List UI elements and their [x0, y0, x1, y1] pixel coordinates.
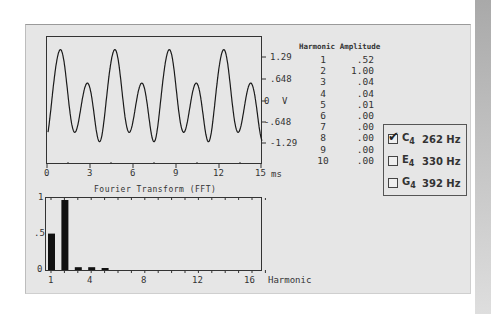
fft-y-tick-label: 0: [37, 264, 42, 274]
fft-bar: [75, 267, 82, 270]
note-checkbox-g4[interactable]: G4392 Hz: [388, 175, 461, 191]
harmonic-number: 5: [312, 99, 334, 110]
harmonic-number: 4: [312, 88, 334, 99]
fft-y-tick-label: .5: [34, 228, 45, 238]
table-row: 10.00: [312, 155, 374, 166]
fft-x-tick-label: 1: [48, 275, 53, 285]
y-tick-label: 0: [264, 96, 269, 106]
x-unit-label: ms: [271, 169, 282, 179]
amplitude-value: .04: [334, 88, 374, 99]
y-tick-label: 1.29: [270, 52, 292, 62]
fft-bar: [102, 268, 109, 270]
scrollbar[interactable]: [475, 0, 491, 314]
fft-x-tick-label: 12: [192, 275, 203, 285]
y-tick-label: .648: [270, 74, 292, 84]
table-row: 6.00: [312, 110, 374, 121]
note-selector: ✔C4262 HzE4330 HzG4392 Hz: [383, 124, 467, 196]
amplitude-value: .52: [334, 54, 374, 65]
amplitude-value: .00: [334, 121, 374, 132]
y-tick-label: -.648: [264, 117, 291, 127]
note-name: C4: [402, 132, 422, 146]
table-row: 5.01: [312, 99, 374, 110]
fft-bar: [88, 267, 95, 270]
table-row: 8.00: [312, 132, 374, 143]
amplitude-value: .00: [334, 144, 374, 155]
note-checkbox-c4[interactable]: ✔C4262 Hz: [388, 131, 461, 147]
amplitude-value: .00: [334, 132, 374, 143]
fft-x-tick-label: 8: [141, 275, 146, 285]
table-row: 1.52: [312, 54, 374, 65]
note-frequency: 262 Hz: [422, 134, 461, 145]
table-row: 21.00: [312, 65, 374, 76]
column-header-harmonic: Harmonic: [299, 42, 335, 51]
harmonic-number: 9: [312, 144, 334, 155]
note-name: G4: [402, 176, 422, 190]
x-tick-label: 9: [173, 168, 178, 178]
amplitude-value: .00: [334, 155, 374, 166]
harmonic-table-header: Harmonic Amplitude: [299, 42, 380, 51]
note-frequency: 392 Hz: [422, 178, 461, 189]
fft-x-axis-label: Harmonic: [268, 275, 311, 285]
table-row: 7.00: [312, 121, 374, 132]
check-icon: ✔: [388, 130, 399, 143]
fft-plot: [45, 197, 262, 271]
x-tick-label: 3: [87, 168, 92, 178]
checkbox[interactable]: ✔: [388, 134, 398, 144]
note-frequency: 330 Hz: [422, 156, 461, 167]
fft-x-tick-label: 16: [244, 275, 255, 285]
harmonic-number: 7: [312, 121, 334, 132]
checkbox[interactable]: [388, 178, 398, 188]
fft-bar: [61, 200, 68, 270]
x-tick-label: 15: [255, 168, 266, 178]
amplitude-value: .00: [334, 110, 374, 121]
harmonic-number: 10: [312, 155, 334, 166]
harmonic-table: 1.5221.003.044.045.016.007.008.009.0010.…: [312, 54, 374, 166]
table-row: 9.00: [312, 144, 374, 155]
note-checkbox-e4[interactable]: E4330 Hz: [388, 153, 461, 169]
harmonic-number: 2: [312, 65, 334, 76]
x-tick-label: 6: [130, 168, 135, 178]
x-tick-label: 0: [44, 168, 49, 178]
fft-bars: [46, 198, 263, 272]
y-unit-label: V: [282, 96, 287, 106]
fft-x-tick-label: 4: [87, 275, 92, 285]
harmonic-number: 3: [312, 76, 334, 87]
note-name: E4: [402, 154, 422, 168]
harmonic-number: 6: [312, 110, 334, 121]
amplitude-value: .04: [334, 76, 374, 87]
table-row: 3.04: [312, 76, 374, 87]
checkbox[interactable]: [388, 156, 398, 166]
table-row: 4.04: [312, 88, 374, 99]
x-tick-label: 12: [213, 168, 224, 178]
harmonic-number: 1: [312, 54, 334, 65]
waveform-plot: [46, 36, 262, 164]
amplitude-value: 1.00: [334, 65, 374, 76]
harmonic-number: 8: [312, 132, 334, 143]
y-tick-label: -1.29: [270, 138, 297, 148]
amplitude-value: .01: [334, 99, 374, 110]
fft-bar: [48, 234, 55, 270]
fft-y-tick-label: 1: [38, 192, 43, 202]
waveform-line: [47, 37, 263, 165]
column-header-amplitude: Amplitude: [340, 42, 381, 51]
fft-title: Fourier Transform (FFT): [94, 185, 216, 194]
